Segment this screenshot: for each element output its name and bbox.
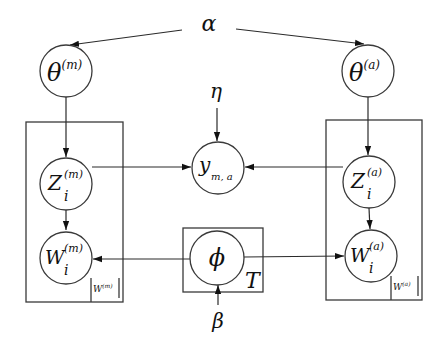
svg-text:(m): (m) xyxy=(64,168,83,181)
node-z-a: Z (a) i xyxy=(343,156,395,208)
svg-text:i: i xyxy=(369,260,373,276)
svg-text:i: i xyxy=(64,262,68,278)
plate-topic-label: T xyxy=(245,268,262,293)
beta-label: β xyxy=(211,309,224,333)
node-z-m: Z (m) i xyxy=(40,158,92,210)
svg-text:Z: Z xyxy=(47,171,63,195)
edge-alpha-theta-a xyxy=(236,29,364,44)
svg-text:ϕ: ϕ xyxy=(209,244,225,272)
svg-text:(a): (a) xyxy=(367,166,382,179)
svg-text:W: W xyxy=(350,244,371,266)
plate-right-label: W(a) xyxy=(391,276,418,300)
eta-label: η xyxy=(210,79,222,103)
edge-phi-w-a xyxy=(244,256,344,257)
node-w-a: W (a) i xyxy=(345,230,397,282)
edge-alpha-theta-m xyxy=(70,30,182,45)
svg-text:(a): (a) xyxy=(369,240,384,253)
svg-text:W(a): W(a) xyxy=(393,280,411,292)
svg-text:W(m): W(m) xyxy=(93,282,113,294)
svg-text:i: i xyxy=(64,188,68,204)
svg-text:y: y xyxy=(198,153,211,177)
node-y: y m, a xyxy=(192,142,244,194)
plate-left-label: W(m) xyxy=(91,278,119,302)
node-theta-a: θ(a) xyxy=(342,45,394,97)
edge-z-a-w-a xyxy=(369,208,370,229)
node-phi: ϕ xyxy=(190,231,244,285)
svg-text:m, a: m, a xyxy=(211,171,233,182)
graphical-model-diagram: W(m) W(a) α η β θ(m) θ(a) Z (m) i Z (a) xyxy=(0,0,445,344)
alpha-label: α xyxy=(202,11,217,36)
svg-text:(m): (m) xyxy=(64,242,83,255)
node-theta-m: θ(m) xyxy=(40,45,92,97)
node-w-m: W (m) i xyxy=(40,232,92,284)
svg-text:Z: Z xyxy=(350,169,366,193)
svg-text:W: W xyxy=(45,246,66,268)
svg-text:i: i xyxy=(367,186,371,202)
